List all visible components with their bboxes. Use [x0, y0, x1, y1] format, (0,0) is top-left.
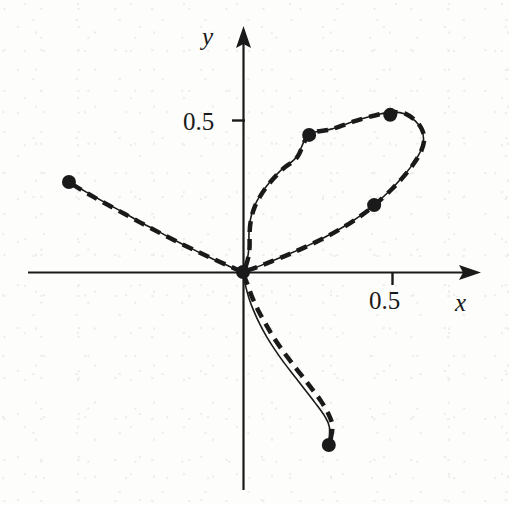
- data-point-loop-upper-left-node: [302, 128, 316, 142]
- x-axis-tick-label: 0.5: [369, 287, 400, 314]
- data-point-markers: [62, 108, 397, 452]
- x-axis-label: x: [454, 289, 466, 316]
- parametric-curve-plot: y x 0.5 0.5: [0, 0, 509, 505]
- data-point-loop-top-right-node: [383, 108, 397, 122]
- axes-group: [28, 26, 481, 490]
- data-point-left-branch-endpoint: [62, 175, 76, 189]
- approximation-curve: [72, 112, 424, 442]
- y-axis-tick-label: 0.5: [183, 108, 214, 135]
- figure-canvas: y x 0.5 0.5: [0, 0, 509, 505]
- data-point-origin-node: [236, 265, 250, 279]
- y-axis-label: y: [199, 23, 214, 50]
- data-point-lower-branch-endpoint: [322, 438, 336, 452]
- data-point-loop-lower-right-node: [367, 198, 381, 212]
